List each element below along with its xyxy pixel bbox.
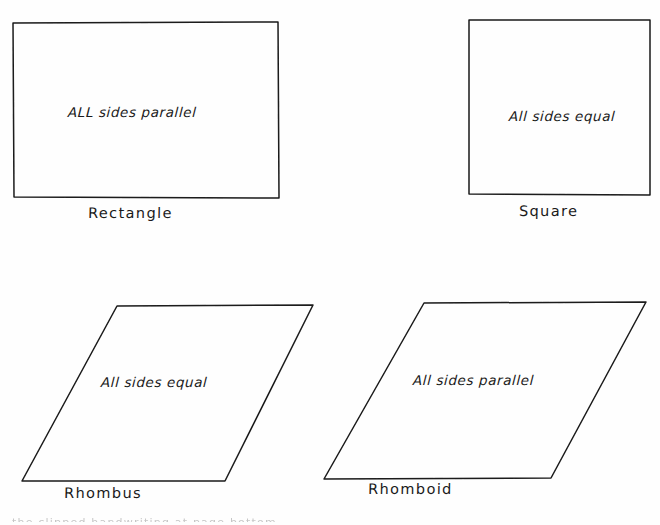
rhombus-name: Rhombus (64, 485, 142, 501)
diagram-canvas: ALL sides parallel Rectangle All sides e… (0, 0, 660, 525)
square-name: Square (519, 203, 579, 219)
rhomboid-inner-label: All sides parallel (413, 372, 535, 388)
square-inner-label: All sides equal (509, 108, 616, 124)
shapes-svg (0, 0, 660, 525)
rectangle-inner-label: ALL sides parallel (68, 104, 197, 120)
rhombus-inner-label: All sides equal (101, 374, 208, 390)
rhomboid-name: Rhomboid (368, 481, 453, 497)
shape-rhombus (22, 305, 313, 481)
rectangle-name: Rectangle (88, 205, 173, 221)
shape-rhomboid (324, 302, 646, 479)
clipped-bottom-text: the clipped handwriting at page bottom (12, 516, 277, 522)
